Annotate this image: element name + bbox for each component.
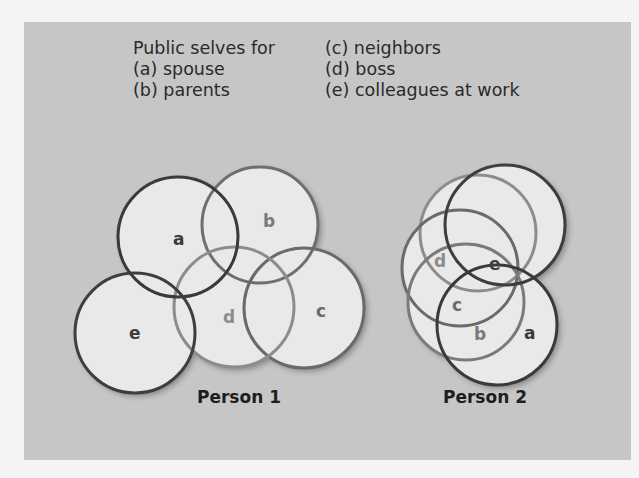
person2-label-e: e [489, 254, 501, 274]
person2-label-c: c [452, 295, 462, 315]
person2-label-d: d [434, 251, 446, 271]
person1-label-c: c [316, 301, 326, 321]
person2-label-b: b [474, 324, 486, 344]
venn-diagrams: a b c d e d e c b a [0, 0, 639, 478]
person1-label-a: a [173, 229, 184, 249]
person1-label-e: e [129, 323, 141, 343]
person1-diagram: a b c d e [75, 167, 364, 393]
person2-diagram: d e c b a [402, 165, 565, 385]
person1-label-b: b [263, 211, 275, 231]
person2-caption: Person 2 [443, 387, 527, 407]
person2-label-a: a [524, 323, 535, 343]
person1-caption: Person 1 [197, 387, 281, 407]
person1-label-d: d [223, 307, 235, 327]
